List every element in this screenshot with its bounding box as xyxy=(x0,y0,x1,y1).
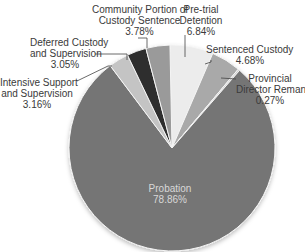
label-value: 3.78% xyxy=(92,26,187,37)
label-text: Custody Sentence xyxy=(92,15,187,26)
label-value: 6.84% xyxy=(176,26,226,37)
label-text: Sentenced Custody xyxy=(206,44,288,55)
label-text: Intensive Support xyxy=(0,77,74,88)
label-text: Deferred Custody xyxy=(30,37,100,48)
label-text: Provincial xyxy=(236,73,304,84)
label-intensive-support: Intensive Support and Supervision 3.16% xyxy=(0,77,74,110)
label-value: 4.68% xyxy=(206,55,288,66)
label-text: Pre-trial xyxy=(176,4,226,15)
label-deferred-custody: Deferred Custody and Supervision 3.05% xyxy=(30,37,100,70)
label-text: and Supervision xyxy=(30,48,100,59)
label-community-portion: Community Portion of Custody Sentence 3.… xyxy=(92,4,187,37)
label-text: Detention xyxy=(176,15,226,26)
label-provincial-director-remand: Provincial Director Remand* 0.27% xyxy=(236,73,304,106)
label-text: Director Remand* xyxy=(236,84,304,95)
label-text: and Supervision xyxy=(0,88,74,99)
label-pretrial-detention: Pre-trial Detention 6.84% xyxy=(176,4,226,37)
label-sentenced-custody: Sentenced Custody 4.68% xyxy=(206,44,288,66)
label-text: Community Portion of xyxy=(92,4,187,15)
label-value: 3.05% xyxy=(30,59,100,70)
label-text: Probation xyxy=(140,183,200,194)
label-value: 78.86% xyxy=(140,194,200,205)
label-value: 3.16% xyxy=(0,99,74,110)
label-value: 0.27% xyxy=(236,95,304,106)
label-probation: Probation 78.86% xyxy=(140,183,200,205)
